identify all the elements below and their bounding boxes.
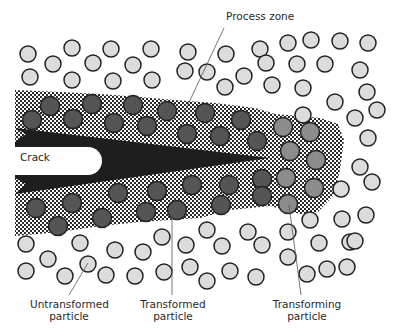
transformed-label-line2: particle bbox=[138, 310, 208, 322]
process-zone-diagram: Process zone Crack Untransformed particl… bbox=[0, 0, 397, 336]
transformed-particle-label: Transformed particle bbox=[138, 298, 208, 322]
transforming-particle-label: Transforming particle bbox=[272, 298, 342, 322]
transforming-label-line2: particle bbox=[272, 310, 342, 322]
transforming-label-line1: Transforming bbox=[272, 298, 342, 310]
process-zone-label: Process zone bbox=[226, 10, 294, 22]
transformed-label-line1: Transformed bbox=[138, 298, 208, 310]
untransformed-label-line2: particle bbox=[30, 310, 108, 322]
crack-label: Crack bbox=[20, 151, 50, 163]
untransformed-label-line1: Untransformed bbox=[30, 298, 108, 310]
untransformed-particle-label: Untransformed particle bbox=[30, 298, 108, 322]
